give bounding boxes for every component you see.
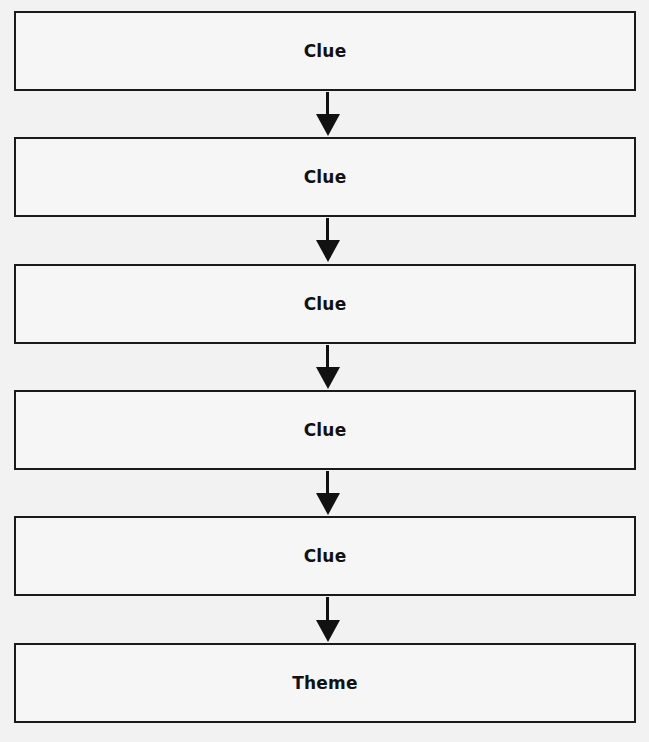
clue-label-4: Clue: [304, 420, 347, 440]
down-arrow-icon: [316, 92, 340, 136]
down-arrow-icon: [316, 218, 340, 262]
clue-box-1: Clue: [14, 11, 636, 91]
theme-label: Theme: [292, 673, 357, 693]
clue-box-5: Clue: [14, 516, 636, 596]
theme-box: Theme: [14, 643, 636, 723]
down-arrow-icon: [316, 345, 340, 389]
down-arrow-icon: [316, 471, 340, 515]
clue-label-3: Clue: [304, 294, 347, 314]
down-arrow-icon: [316, 597, 340, 642]
clue-label-1: Clue: [304, 41, 347, 61]
clue-box-3: Clue: [14, 264, 636, 344]
clue-box-2: Clue: [14, 137, 636, 217]
clue-box-4: Clue: [14, 390, 636, 470]
clue-label-5: Clue: [304, 546, 347, 566]
clue-label-2: Clue: [304, 167, 347, 187]
